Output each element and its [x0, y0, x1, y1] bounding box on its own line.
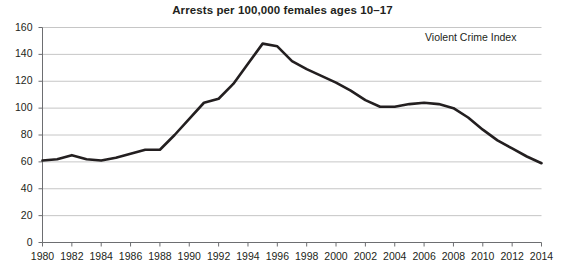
- chart-container: Arrests per 100,000 females ages 10–17 0…: [0, 0, 565, 275]
- y-axis-tick-label: 20: [1, 209, 33, 221]
- y-axis-tick-label: 0: [1, 236, 33, 248]
- x-axis-ticks: [43, 243, 542, 247]
- y-axis-tick-label: 40: [1, 182, 33, 194]
- y-axis-tick-label: 160: [1, 21, 33, 33]
- y-axis-tick-label: 140: [1, 47, 33, 59]
- y-axis-tick-label: 120: [1, 74, 33, 86]
- y-axis-tick-label: 80: [1, 128, 33, 140]
- y-axis-tick-label: 60: [1, 155, 33, 167]
- y-axis-ticks: [39, 28, 43, 243]
- legend-violent-crime-index: Violent Crime Index: [425, 31, 516, 43]
- gridlines: [43, 28, 542, 216]
- x-axis-tick-label: 2014: [522, 250, 562, 262]
- data-line-violent-crime-index: [43, 44, 542, 164]
- data-series-group: [43, 44, 542, 164]
- y-axis-tick-label: 100: [1, 101, 33, 113]
